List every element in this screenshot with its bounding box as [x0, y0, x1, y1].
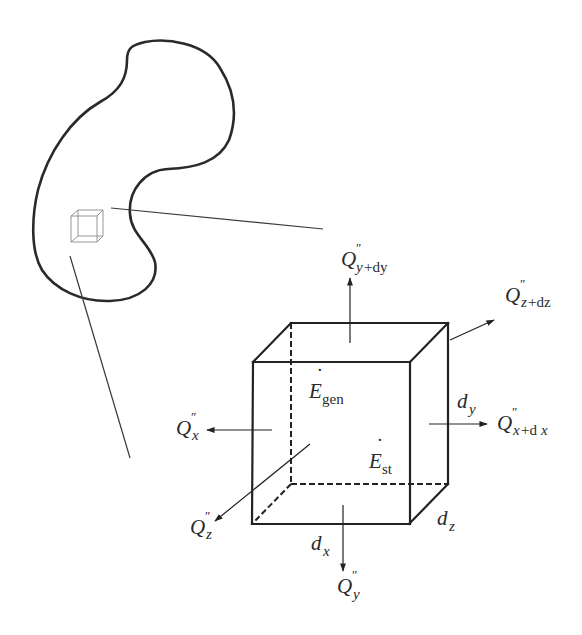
svg-text:″: ″ [512, 404, 517, 419]
svg-text:y: y [354, 259, 363, 275]
svg-text:d: d [311, 531, 322, 555]
svg-text:″: ″ [520, 276, 525, 291]
svg-text:d: d [457, 389, 468, 413]
control-volume-diagram: Q ″ y +dy Q ″ z +dz Q ″ x Q ″ x +d x Q ″… [0, 0, 582, 635]
svg-text:Q: Q [505, 283, 520, 307]
label-q-x: Q ″ x [176, 409, 199, 443]
svg-text:˙: ˙ [315, 364, 322, 388]
svg-text:˙: ˙ [375, 434, 382, 458]
label-d-x: d x [311, 531, 330, 559]
svg-text:x: x [191, 427, 199, 443]
svg-text:Q: Q [337, 574, 352, 598]
label-q-y-plus-dy: Q ″ y +dy [341, 240, 388, 275]
label-e-st: E ˙ st [368, 434, 393, 477]
svg-text:″: ″ [191, 409, 196, 424]
svg-text:+d: +d [521, 422, 537, 438]
svg-text:Q: Q [176, 416, 191, 440]
svg-text:″: ″ [205, 508, 210, 523]
svg-text:z: z [520, 294, 527, 310]
heat-flux-arrow-z-plus-dz [450, 320, 494, 340]
solid-body-outline [33, 41, 234, 301]
svg-text:Q: Q [341, 247, 356, 271]
svg-text:Q: Q [497, 411, 512, 435]
svg-text:z: z [205, 526, 212, 542]
small-element-cube-icon [71, 210, 103, 242]
leader-line-bottom [70, 256, 130, 458]
heat-flux-arrow-z [215, 444, 310, 521]
svg-text:y: y [351, 586, 360, 602]
svg-text:″: ″ [356, 240, 361, 255]
svg-text:″: ″ [352, 567, 357, 582]
label-e-gen: E ˙ gen [308, 364, 344, 407]
svg-text:+dy: +dy [364, 259, 388, 275]
label-q-z: Q ″ z [190, 508, 212, 542]
label-d-y: d y [457, 389, 476, 417]
label-d-z: d z [437, 506, 455, 534]
svg-text:z: z [448, 518, 455, 534]
svg-text:+dz: +dz [528, 294, 551, 310]
svg-text:x: x [512, 422, 520, 438]
svg-text:y: y [467, 401, 476, 417]
label-q-z-plus-dz: Q ″ z +dz [505, 276, 551, 310]
svg-text:x: x [322, 543, 330, 559]
svg-text:Q: Q [190, 515, 205, 539]
label-q-y: Q ″ y [337, 567, 360, 602]
leader-line-top [111, 208, 323, 229]
svg-text:x: x [540, 422, 548, 438]
svg-text:st: st [382, 461, 393, 477]
svg-text:gen: gen [322, 391, 344, 407]
label-q-x-plus-dx: Q ″ x +d x [497, 404, 548, 438]
svg-text:d: d [437, 506, 448, 530]
